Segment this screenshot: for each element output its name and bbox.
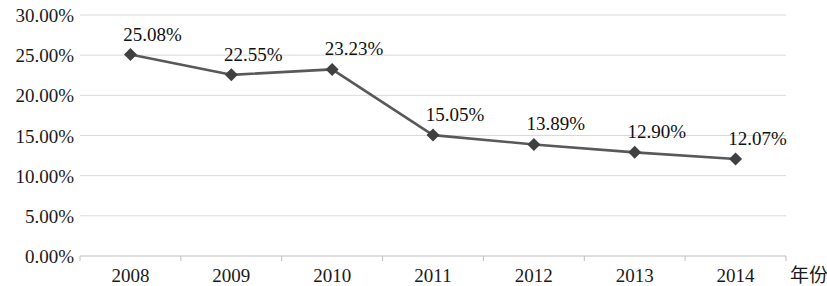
data-point-label: 13.89% [527, 114, 586, 133]
y-axis-tick-label: 30.00% [15, 6, 74, 25]
x-axis-tick-label: 2012 [515, 266, 553, 285]
y-axis-tick-label: 25.00% [15, 46, 74, 65]
y-axis-tick-label: 15.00% [15, 127, 74, 146]
data-marker [225, 68, 238, 81]
data-marker [427, 129, 440, 142]
data-point-label: 23.23% [325, 39, 384, 58]
x-axis-title: 年份 [790, 266, 827, 285]
axis-ticks [80, 256, 786, 261]
data-marker [527, 138, 540, 151]
x-axis-tick-label: 2011 [414, 266, 451, 285]
y-axis-tick-label: 5.00% [25, 207, 74, 226]
x-axis-tick-label: 2013 [616, 266, 654, 285]
x-axis-tick-label: 2009 [212, 266, 250, 285]
data-marker [124, 48, 137, 61]
y-axis: 30.00%25.00%20.00%15.00%10.00%5.00%0.00% [0, 0, 74, 286]
y-axis-tick-label: 0.00% [25, 247, 74, 266]
line-chart: 30.00%25.00%20.00%15.00%10.00%5.00%0.00%… [0, 0, 827, 286]
data-point-label: 12.07% [728, 129, 787, 148]
data-point-label: 12.90% [627, 122, 686, 141]
data-marker [729, 153, 742, 166]
x-axis-tick-label: 2014 [717, 266, 755, 285]
data-point-label: 25.08% [123, 25, 182, 44]
data-marker [326, 63, 339, 76]
data-point-label: 22.55% [224, 45, 283, 64]
data-marker [628, 146, 641, 159]
data-point-label: 15.05% [426, 105, 485, 124]
x-axis-tick-label: 2008 [111, 266, 149, 285]
y-axis-tick-label: 10.00% [15, 167, 74, 186]
x-axis-tick-label: 2010 [313, 266, 351, 285]
y-axis-tick-label: 20.00% [15, 86, 74, 105]
